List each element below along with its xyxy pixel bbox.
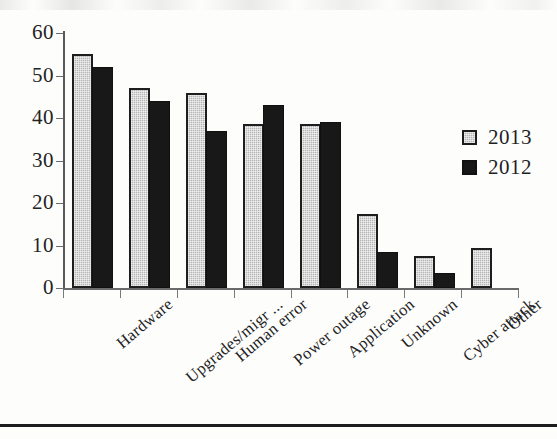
- bar-group: [120, 33, 177, 288]
- x-axis-tick: [518, 290, 519, 298]
- y-axis-tick-label: 40: [32, 107, 54, 128]
- bar-group: [234, 33, 291, 288]
- legend-swatch-2012-icon: [462, 160, 477, 175]
- legend-label-2013: 2013: [488, 125, 532, 150]
- x-axis-label: Other: [506, 296, 547, 334]
- y-axis-tick: [56, 33, 63, 34]
- bar-2012: [320, 122, 341, 288]
- bar-2013: [129, 88, 150, 288]
- legend-swatch-2013-icon: [462, 130, 477, 145]
- bar-2013: [243, 124, 264, 288]
- legend-label-2012: 2012: [488, 155, 532, 180]
- y-axis-tick: [56, 246, 63, 247]
- x-axis-tick: [63, 290, 64, 298]
- bar-group: [404, 33, 461, 288]
- x-axis-tick: [347, 290, 348, 298]
- x-axis-tick: [291, 290, 292, 298]
- bar-2012: [434, 273, 455, 288]
- bar-2012: [149, 101, 170, 288]
- y-axis-tick-label: 20: [32, 192, 54, 213]
- legend-item-2012: 2012: [462, 152, 532, 182]
- x-axis-tick: [461, 290, 462, 298]
- bar-2013: [357, 214, 378, 288]
- y-axis-tick-label: 30: [32, 150, 54, 171]
- y-axis-tick-label: 10: [32, 235, 54, 256]
- bar-2012: [263, 105, 284, 288]
- bar-group: [177, 33, 234, 288]
- plot-area: 0102030405060: [63, 33, 518, 288]
- bar-2012: [206, 131, 227, 288]
- bar-2012: [92, 67, 113, 288]
- bar-group: [291, 33, 348, 288]
- y-axis-tick: [56, 203, 63, 204]
- legend-item-2013: 2013: [462, 122, 532, 152]
- bar-2012: [377, 252, 398, 288]
- x-axis-tick: [234, 290, 235, 298]
- scan-noise-artifact: [0, 0, 557, 10]
- bar-2013: [186, 93, 207, 289]
- y-axis-tick-label: 50: [32, 65, 54, 86]
- bar-group: [347, 33, 404, 288]
- bar-2013: [471, 248, 492, 288]
- y-axis-tick-label: 60: [32, 22, 54, 43]
- x-axis-label: Hardware: [114, 296, 176, 352]
- y-axis-tick: [56, 288, 63, 289]
- y-axis-tick: [56, 118, 63, 119]
- page-bottom-rule: [0, 424, 557, 427]
- y-axis-tick: [56, 161, 63, 162]
- chart-legend: 2013 2012: [462, 122, 532, 182]
- y-axis-tick-label: 0: [43, 277, 54, 298]
- bar-2013: [300, 124, 321, 288]
- x-axis-tick: [120, 290, 121, 298]
- bar-chart-figure: 0102030405060 HardwareUpgrades/migr ...H…: [0, 0, 557, 439]
- bar-2013: [72, 54, 93, 288]
- bar-2013: [414, 256, 435, 288]
- x-axis-tick: [177, 290, 178, 298]
- bar-group: [63, 33, 120, 288]
- y-axis-tick: [56, 76, 63, 77]
